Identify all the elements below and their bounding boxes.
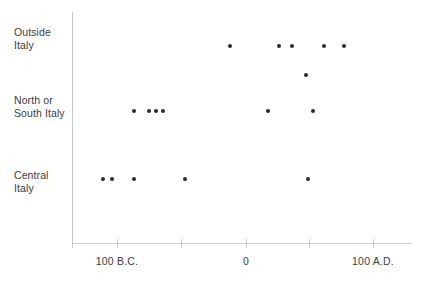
category-label-north-or-south-italy: North or South Italy — [14, 94, 65, 120]
dot-plot-chart: Outside ItalyNorth or South ItalyCentral… — [0, 0, 428, 284]
data-point-north-south-italy-3 — [154, 109, 158, 113]
category-label-central-italy: Central Italy — [14, 169, 49, 195]
data-point-central-italy-2 — [110, 177, 114, 181]
category-label-outside-italy: Outside Italy — [14, 26, 51, 52]
x-tick-label-5: 100 A.D. — [352, 255, 394, 267]
x-axis-tick-5 — [373, 239, 374, 248]
x-axis-tick-1 — [117, 239, 118, 248]
data-point-north-south-italy-4 — [161, 109, 165, 113]
data-point-outside-italy-4 — [322, 44, 326, 48]
data-point-central-italy-1 — [101, 177, 105, 181]
data-point-north-south-italy-5 — [266, 109, 270, 113]
data-point-outside-italy-3 — [290, 44, 294, 48]
data-point-outside-italy-5 — [342, 44, 346, 48]
x-axis-tick-4 — [309, 239, 310, 248]
data-point-central-italy-3 — [132, 177, 136, 181]
data-point-outside-italy-6 — [304, 73, 308, 77]
data-point-north-south-italy-6 — [311, 109, 315, 113]
data-point-central-italy-5 — [306, 177, 310, 181]
x-axis-line — [72, 243, 412, 244]
x-tick-label-1: 100 B.C. — [96, 255, 138, 267]
x-axis-tick-3 — [246, 239, 247, 248]
data-point-outside-italy-1 — [228, 44, 232, 48]
x-tick-label-3: 0 — [243, 255, 249, 267]
data-point-north-south-italy-1 — [132, 109, 136, 113]
data-point-central-italy-4 — [183, 177, 187, 181]
y-axis-line — [72, 12, 73, 248]
data-point-outside-italy-2 — [277, 44, 281, 48]
x-axis-tick-2 — [181, 239, 182, 248]
x-axis-tick-0 — [72, 239, 73, 248]
data-point-north-south-italy-2 — [147, 109, 151, 113]
